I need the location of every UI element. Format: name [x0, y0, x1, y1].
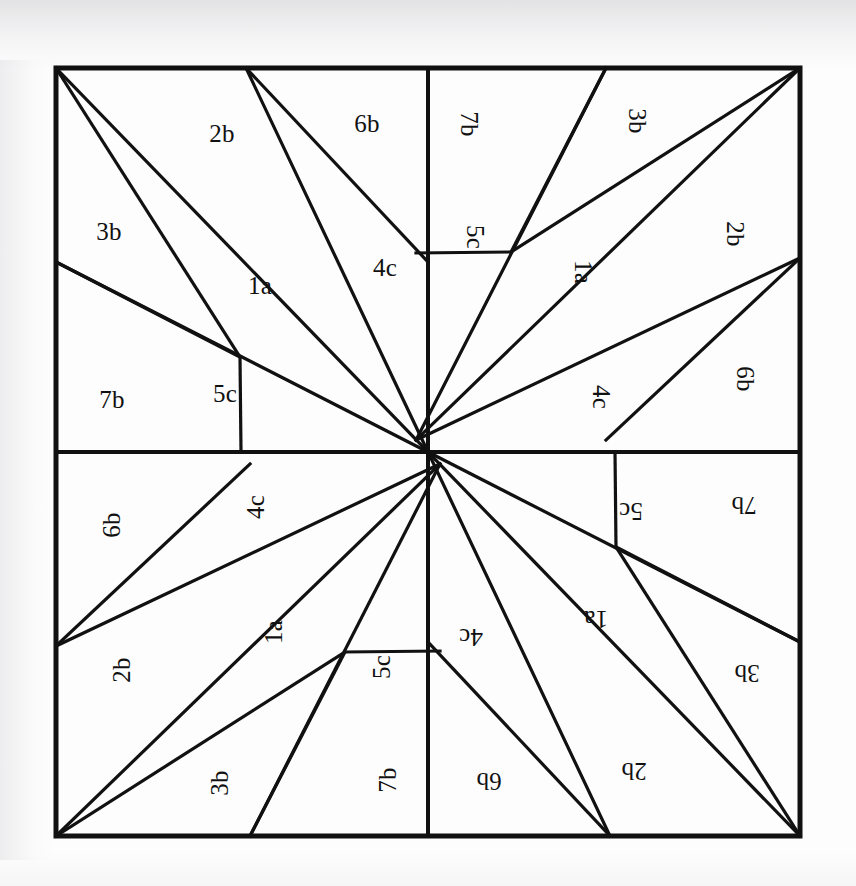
piece-label-5c: 5c	[369, 655, 394, 679]
piece-label-1a: 1a	[248, 273, 272, 298]
piece-label-6b: 6b	[733, 366, 758, 391]
piece-label-3b: 3b	[207, 770, 232, 795]
piece-label-1a: 1a	[571, 260, 596, 284]
piecing-seam-line	[246, 68, 428, 262]
piecing-seam-line	[246, 68, 428, 452]
piecing-seam-line	[345, 651, 440, 652]
piecing-seam-line	[511, 68, 606, 252]
piecing-seam-line	[56, 262, 240, 357]
piecing-seam-line	[606, 258, 800, 440]
piecing-seam-line	[416, 252, 511, 253]
piece-label-2b: 2b	[723, 221, 748, 246]
piece-label-6b: 6b	[99, 512, 124, 537]
piecing-seam-line	[56, 464, 440, 646]
piecing-seam-line	[56, 68, 240, 357]
piecing-seam-line	[416, 258, 800, 440]
piece-label-6b: 6b	[354, 111, 379, 136]
piece-label-5c: 5c	[463, 225, 488, 249]
piece-label-7b: 7b	[731, 493, 756, 518]
piece-label-4c: 4c	[459, 625, 483, 650]
piece-label-6b: 6b	[476, 769, 501, 794]
piece-label-1a: 1a	[584, 607, 608, 632]
piecing-seam-line	[615, 452, 616, 547]
piece-label-1a: 1a	[261, 620, 286, 644]
piece-label-2b: 2b	[109, 657, 134, 682]
piece-label-7b: 7b	[375, 767, 400, 792]
piece-label-4c: 4c	[589, 385, 614, 409]
piecing-seam-line	[616, 547, 800, 836]
piecing-seam-line	[511, 68, 800, 252]
piece-label-4c: 4c	[243, 495, 268, 519]
piece-label-7b: 7b	[99, 387, 124, 412]
piece-label-5c: 5c	[619, 499, 643, 524]
piecing-seam-line	[250, 652, 345, 836]
piece-label-3b: 3b	[96, 219, 121, 244]
piecing-seam-line	[56, 652, 345, 836]
piece-label-3b: 3b	[734, 661, 759, 686]
piecing-seam-line	[56, 464, 250, 646]
piece-label-2b: 2b	[621, 759, 646, 784]
piecing-seam-line	[428, 642, 610, 836]
quilt-block-diagram	[0, 0, 856, 886]
piece-label-7b: 7b	[457, 111, 482, 136]
piece-label-4c: 4c	[373, 255, 397, 280]
piece-label-5c: 5c	[213, 381, 237, 406]
piecing-seam-line	[616, 547, 800, 642]
piece-label-3b: 3b	[625, 108, 650, 133]
diagram-page: 1a2b3b4c5c6b7b1a2b3b4c5c6b7b1a2b3b4c5c6b…	[0, 0, 856, 886]
piecing-seam-line	[428, 452, 610, 836]
piece-label-2b: 2b	[209, 121, 234, 146]
piecing-seam-line	[240, 357, 241, 452]
